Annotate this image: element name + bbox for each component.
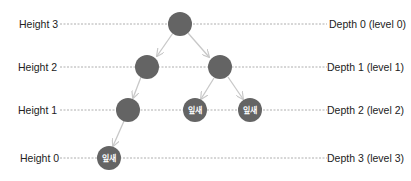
guide-lines [60, 24, 327, 158]
height-label-2: Height 2 [18, 61, 57, 73]
depth-label-1: Depth 1 (level 1) [327, 61, 404, 73]
edge-l1-right-l2-b [201, 78, 214, 99]
tree-edges [113, 33, 243, 146]
height-label-1: Height 1 [18, 104, 57, 116]
leaf-label-l2-c: 잎새 [243, 105, 257, 115]
node-root [168, 12, 192, 36]
edge-l1-left-l2-a [133, 77, 141, 98]
edge-l1-right-l2-c [228, 77, 243, 99]
edge-root-l1-right [188, 33, 209, 57]
height-labels: Height 3 Height 2 Height 1 Height 0 [18, 18, 59, 164]
depth-label-3: Depth 3 (level 3) [327, 152, 404, 164]
depth-labels: Depth 0 (level 0) Depth 1 (level 1) Dept… [327, 18, 406, 164]
tree-diagram: 잎새 잎새 잎새 Height 3 Height 2 Height 1 Heig… [0, 0, 411, 181]
edge-l2-a-l3-a [113, 121, 124, 146]
depth-label-0: Depth 0 (level 0) [329, 18, 406, 30]
node-l1-right [208, 55, 232, 79]
height-label-3: Height 3 [19, 18, 58, 30]
leaf-label-l3-a: 잎새 [102, 153, 116, 163]
leaf-label-l2-b: 잎새 [188, 105, 202, 115]
depth-label-2: Depth 2 (level 2) [327, 104, 404, 116]
edge-root-l1-left [157, 33, 173, 56]
node-l1-left [135, 55, 159, 79]
node-l2-a [116, 98, 140, 122]
height-label-0: Height 0 [20, 152, 59, 164]
